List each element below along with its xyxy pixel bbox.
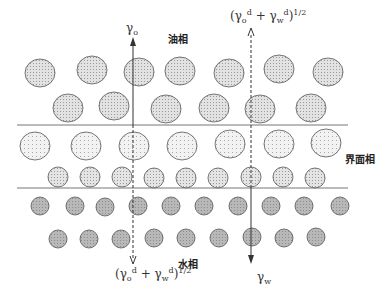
oil-molecule [296, 94, 326, 122]
interface-large-molecule [167, 132, 197, 160]
expr-power: 1/2 [178, 266, 191, 275]
water-molecule [275, 229, 293, 247]
interface-small-molecule [144, 168, 164, 188]
water-molecule [195, 197, 213, 215]
oil-molecule [313, 58, 343, 86]
interface-small-molecule [273, 167, 293, 187]
right-top-expression: (γod + γwd)1/2 [230, 8, 306, 25]
oil-molecule [53, 94, 83, 122]
interface-large-molecule [215, 130, 245, 158]
oil-molecule [151, 95, 181, 123]
interface-small-molecule [48, 167, 68, 187]
water-molecule [331, 197, 349, 215]
water-molecule [80, 230, 98, 248]
water-molecule [66, 197, 84, 215]
expr-w-sub: w [277, 16, 284, 25]
water-molecule [129, 197, 147, 215]
water-molecule [210, 229, 228, 247]
water-molecule [262, 197, 280, 215]
interface-small-molecule [208, 168, 228, 188]
expr-open: (γ [115, 267, 127, 281]
expr-open: (γ [230, 9, 242, 23]
water-molecule [229, 197, 247, 215]
interface-small-molecule [176, 168, 196, 188]
interface-large-molecule [264, 130, 294, 158]
interface-large-molecule [20, 132, 50, 160]
oil-molecule [99, 92, 129, 120]
expr-power: 1/2 [293, 8, 306, 17]
oil-molecule [124, 58, 154, 86]
oil-molecule [245, 95, 275, 123]
oil-molecule [199, 94, 229, 122]
water-molecule [49, 230, 67, 248]
oil-molecule [214, 59, 244, 87]
expr-w-sub: w [162, 274, 169, 283]
interface-large-molecule [119, 132, 149, 160]
water-molecule [162, 197, 180, 215]
oil-molecule [165, 57, 195, 85]
water-molecule [112, 230, 130, 248]
water-molecule [307, 228, 325, 246]
right-bottom-label: γw [257, 270, 271, 286]
water-molecule [96, 198, 114, 216]
right-arrow-up-head-icon [248, 28, 254, 36]
subscript: w [264, 277, 271, 286]
water-molecule [31, 197, 49, 215]
interface-phase-diagram: γo 油相 (γod + γwd)1/2 界面相 水相 (γod + γwd)1… [0, 0, 391, 304]
right-arrow-down-head-icon [248, 255, 254, 264]
expr-plus: + γ [137, 267, 162, 281]
interface-small-molecule [305, 168, 325, 188]
expr-o-sub: o [127, 274, 132, 283]
left-top-label: γo [126, 21, 138, 37]
interface-large-molecule [71, 132, 101, 160]
water-molecule [145, 229, 163, 247]
water-molecule [295, 197, 313, 215]
interface-small-molecule [112, 167, 132, 187]
left-arrow-up-head-icon [130, 37, 136, 46]
expr-o-sub: o [242, 16, 247, 25]
oil-phase-label: 油相 [168, 31, 188, 46]
water-molecule [243, 228, 261, 246]
subscript: o [133, 28, 138, 37]
expr-plus: + γ [252, 9, 277, 23]
interface-phase-label: 界面相 [345, 151, 375, 166]
water-molecule [177, 229, 195, 247]
left-bottom-expression: (γod + γwd)1/2 [115, 266, 191, 283]
interface-large-molecule [311, 129, 341, 157]
interface-small-molecule [80, 167, 100, 187]
oil-molecule [264, 55, 294, 83]
oil-molecule [25, 59, 55, 87]
oil-molecule [77, 56, 107, 84]
